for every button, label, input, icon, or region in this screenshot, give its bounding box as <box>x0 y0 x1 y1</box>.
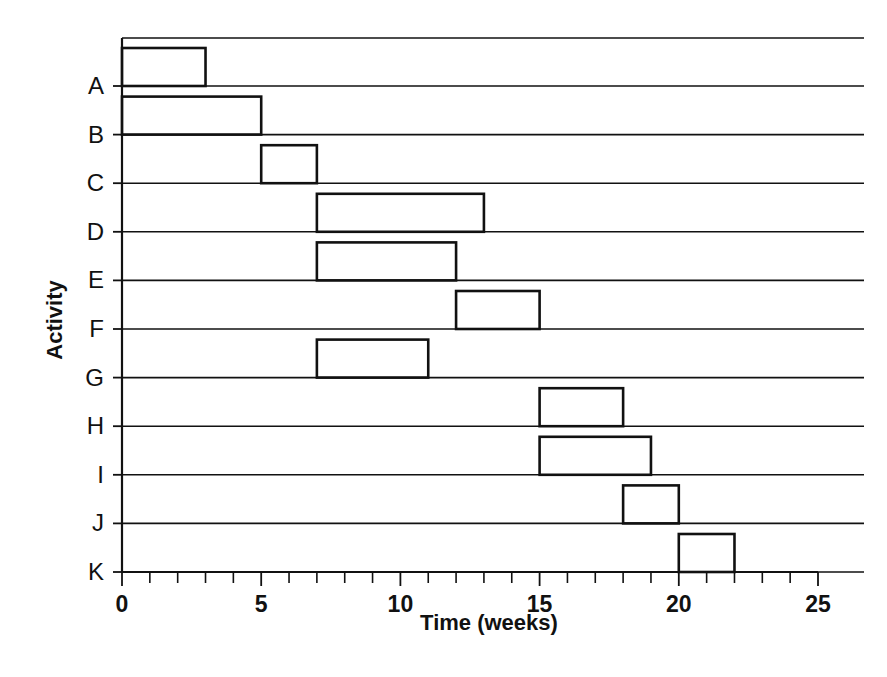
chart-background <box>0 0 887 677</box>
x-tick-label-0: 0 <box>116 591 129 617</box>
activity-label-g: G <box>85 364 104 391</box>
activity-label-b: B <box>88 121 104 148</box>
x-tick-label-25: 25 <box>805 591 831 617</box>
activity-label-c: C <box>87 169 104 196</box>
gantt-chart-svg: ABCDEFGHIJK 0510152025 Time (weeks) Acti… <box>0 0 887 677</box>
x-tick-label-5: 5 <box>255 591 268 617</box>
activity-label-i: I <box>97 461 104 488</box>
gantt-chart: ABCDEFGHIJK 0510152025 Time (weeks) Acti… <box>0 0 887 677</box>
activity-label-f: F <box>89 315 104 342</box>
activity-label-j: J <box>92 509 104 536</box>
activity-label-k: K <box>88 558 104 585</box>
activity-label-a: A <box>88 72 104 99</box>
activity-label-e: E <box>88 266 104 293</box>
x-tick-label-10: 10 <box>388 591 414 617</box>
x-axis-title: Time (weeks) <box>420 610 558 635</box>
activity-label-h: H <box>87 412 104 439</box>
activity-label-d: D <box>87 218 104 245</box>
y-axis-title: Activity <box>42 280 67 360</box>
x-tick-label-20: 20 <box>666 591 692 617</box>
